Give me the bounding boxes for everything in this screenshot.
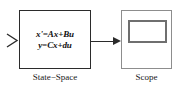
state-space-block-label: State−Space [19, 72, 91, 82]
input-port-chevron-icon [6, 33, 19, 48]
scope-block[interactable] [121, 10, 172, 69]
scope-block-label: Scope [121, 72, 172, 82]
state-equation-line-2: y=Cx+du [38, 40, 72, 51]
signal-line-state-space-to-scope [91, 41, 115, 42]
block-diagram-canvas: x'=Ax+Bu y=Cx+du State−Space Scope [0, 0, 183, 88]
arrow-head-icon [113, 37, 121, 45]
scope-screen [128, 20, 167, 43]
state-equation-line-1: x'=Ax+Bu [36, 29, 74, 40]
state-space-block[interactable]: x'=Ax+Bu y=Cx+du [19, 10, 91, 69]
